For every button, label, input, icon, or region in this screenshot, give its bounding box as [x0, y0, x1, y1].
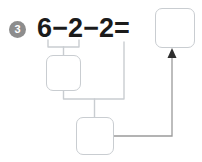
work-box-step-1[interactable]	[46, 55, 81, 91]
equals-sign-icon: =	[114, 13, 130, 44]
equation-expression: 6 − 2 − 2 =	[37, 12, 130, 44]
arrow-step2-to-answer-line	[114, 57, 172, 136]
minus-operator-1-icon: −	[52, 13, 68, 44]
minus-operator-2-icon: −	[83, 13, 99, 44]
arrow-head-up-icon	[168, 48, 177, 58]
operand-2: 2	[68, 13, 83, 44]
worksheet-problem-canvas: 3 6 − 2 − 2 =	[0, 0, 202, 162]
answer-box[interactable]	[155, 8, 195, 48]
operand-1: 6	[37, 13, 52, 44]
operand-3: 2	[99, 13, 114, 44]
problem-number-badge: 3	[9, 21, 26, 38]
work-box-step-2[interactable]	[76, 117, 114, 155]
